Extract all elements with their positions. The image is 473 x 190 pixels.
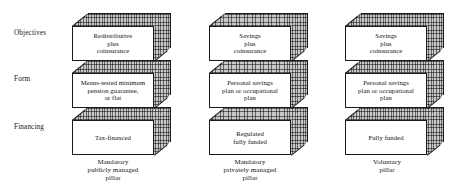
three-pillar-pension-diagram: Objectives Form Financing Redistributive… [0,0,473,190]
pillar-1-caption: Mandatory publicly managed pillar [62,158,164,183]
pillar-3-caption: Voluntary pillar [336,158,438,174]
pillar-1-financing-text: Tax-financed [92,134,134,142]
pillar-1-objectives-front: Redistributive plus coinsurance [72,26,154,61]
pillar-2-financing-box: Regulated fully funded [209,107,307,155]
pillar-3-financing-front: Fully funded [345,120,427,155]
pillar-1-financing-front: Tax-financed [72,120,154,155]
row-label-financing: Financing [14,123,44,131]
pillar-3-form-text: Personal savings plan or occupational pl… [355,79,417,102]
pillar-2-objectives-front: Savings plus coinsurance [209,26,291,61]
row-label-objectives: Objectives [14,29,46,37]
pillar-1-financing-box: Tax-financed [72,107,170,155]
pillar-2-financing-front: Regulated fully funded [209,120,291,155]
pillar-2-form-front: Personal savings plan or occupational pl… [209,73,291,108]
pillar-1-form-box: Means-tested minimum pension guarantee, … [72,60,170,108]
pillar-3-objectives-front: Savings plus coinsurance [345,26,427,61]
pillar-3-financing-box: Fully funded [345,107,443,155]
pillar-2-objectives-box: Savings plus coinsurance [209,13,307,61]
row-label-form: Form [14,75,30,83]
pillar-1-objectives-box: Redistributive plus coinsurance [72,13,170,61]
pillar-1-form-front: Means-tested minimum pension guarantee, … [72,73,154,108]
pillar-1-form-text: Means-tested minimum pension guarantee, … [78,79,148,102]
pillar-3-objectives-text: Savings plus coinsurance [367,32,406,55]
pillar-2-form-box: Personal savings plan or occupational pl… [209,60,307,108]
pillar-3-form-front: Personal savings plan or occupational pl… [345,73,427,108]
pillar-3-form-box: Personal savings plan or occupational pl… [345,60,443,108]
pillar-3-financing-text: Fully funded [365,134,406,142]
pillar-2-form-text: Personal savings plan or occupational pl… [219,79,281,102]
pillar-2-objectives-text: Savings plus coinsurance [231,32,270,55]
pillar-2-financing-text: Regulated fully funded [230,130,270,145]
pillar-1-objectives-text: Redistributive plus coinsurance [91,32,136,55]
pillar-2-caption: Mandatory privately managed pillar [199,158,301,183]
pillar-3-objectives-box: Savings plus coinsurance [345,13,443,61]
